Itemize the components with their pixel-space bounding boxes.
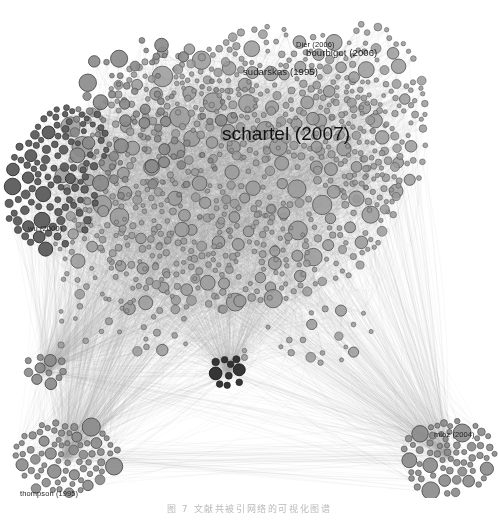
co-citation-network-canvas (0, 0, 498, 498)
network-figure: schartel (2007)bourbigot (2006)sudarskas… (0, 0, 498, 520)
figure-caption: 图 7 文献共被引网络的可视化图谱 (0, 502, 498, 515)
